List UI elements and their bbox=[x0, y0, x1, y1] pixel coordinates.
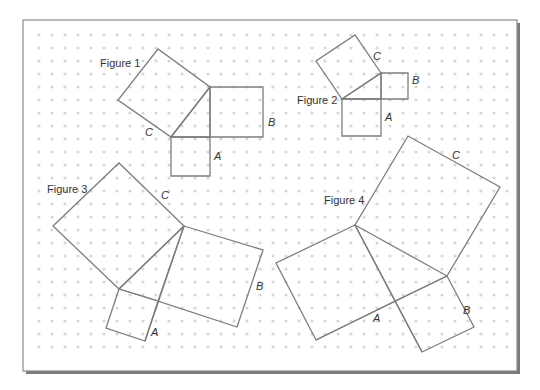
grid-dot bbox=[180, 280, 183, 283]
grid-dot bbox=[219, 46, 222, 49]
grid-dot bbox=[388, 46, 391, 49]
grid-dot bbox=[154, 33, 157, 36]
grid-dot bbox=[245, 345, 248, 348]
grid-dot bbox=[427, 124, 430, 127]
grid-dot bbox=[427, 59, 430, 62]
grid-dot bbox=[50, 215, 53, 218]
grid-dot bbox=[479, 72, 482, 75]
grid-dot bbox=[388, 319, 391, 322]
grid-dot bbox=[89, 59, 92, 62]
grid-dot bbox=[479, 319, 482, 322]
grid-dot bbox=[310, 345, 313, 348]
grid-dot bbox=[154, 72, 157, 75]
grid-dot bbox=[336, 332, 339, 335]
grid-dot bbox=[206, 280, 209, 283]
grid-dot bbox=[401, 111, 404, 114]
grid-dot bbox=[401, 189, 404, 192]
grid-dot bbox=[154, 241, 157, 244]
grid-dot bbox=[323, 111, 326, 114]
grid-dot bbox=[232, 33, 235, 36]
grid-dot bbox=[76, 215, 79, 218]
grid-dot bbox=[388, 306, 391, 309]
grid-dot bbox=[115, 150, 118, 153]
grid-dot bbox=[115, 228, 118, 231]
grid-dot bbox=[128, 33, 131, 36]
grid-dot bbox=[297, 124, 300, 127]
grid-dot bbox=[37, 293, 40, 296]
grid-dot bbox=[479, 46, 482, 49]
grid-dot bbox=[323, 306, 326, 309]
grid-dot bbox=[492, 345, 495, 348]
grid-dot bbox=[206, 111, 209, 114]
grid-dot bbox=[193, 241, 196, 244]
grid-dot bbox=[154, 137, 157, 140]
grid-dot bbox=[89, 124, 92, 127]
grid-dot bbox=[76, 319, 79, 322]
grid-dot bbox=[388, 267, 391, 270]
grid-dot bbox=[440, 46, 443, 49]
grid-dot bbox=[258, 111, 261, 114]
grid-dot bbox=[180, 293, 183, 296]
grid-dot bbox=[115, 254, 118, 257]
grid-dot bbox=[349, 46, 352, 49]
grid-dot bbox=[167, 124, 170, 127]
grid-dot bbox=[219, 59, 222, 62]
grid-dot bbox=[206, 241, 209, 244]
grid-dot bbox=[414, 306, 417, 309]
grid-dot bbox=[440, 124, 443, 127]
grid-dot bbox=[115, 72, 118, 75]
grid-dot bbox=[141, 306, 144, 309]
grid-dot bbox=[427, 306, 430, 309]
grid-dot bbox=[128, 176, 131, 179]
grid-dot bbox=[271, 85, 274, 88]
grid-dot bbox=[128, 189, 131, 192]
grid-dot bbox=[232, 137, 235, 140]
grid-dot bbox=[310, 124, 313, 127]
grid-dot bbox=[206, 150, 209, 153]
grid-dot bbox=[336, 176, 339, 179]
grid-dot bbox=[414, 98, 417, 101]
grid-dot bbox=[388, 332, 391, 335]
grid-dot bbox=[310, 189, 313, 192]
grid-dot bbox=[63, 163, 66, 166]
grid-dot bbox=[219, 202, 222, 205]
grid-dot bbox=[102, 150, 105, 153]
grid-dot bbox=[375, 254, 378, 257]
grid-dot bbox=[388, 59, 391, 62]
grid-dot bbox=[76, 176, 79, 179]
grid-dot bbox=[167, 215, 170, 218]
grid-dot bbox=[154, 189, 157, 192]
grid-dot bbox=[401, 124, 404, 127]
grid-dot bbox=[271, 59, 274, 62]
grid-dot bbox=[414, 319, 417, 322]
grid-dot bbox=[206, 72, 209, 75]
grid-dot bbox=[76, 33, 79, 36]
grid-dot bbox=[37, 215, 40, 218]
grid-dot bbox=[284, 59, 287, 62]
grid-dot bbox=[245, 189, 248, 192]
grid-dot bbox=[349, 150, 352, 153]
grid-dot bbox=[141, 176, 144, 179]
grid-dot bbox=[323, 124, 326, 127]
grid-dot bbox=[427, 267, 430, 270]
grid-dot bbox=[362, 124, 365, 127]
grid-dot bbox=[401, 59, 404, 62]
grid-dot bbox=[76, 137, 79, 140]
grid-dot bbox=[141, 228, 144, 231]
grid-dot bbox=[115, 332, 118, 335]
grid-dot bbox=[505, 332, 508, 335]
grid-dot bbox=[375, 124, 378, 127]
grid-dot bbox=[50, 163, 53, 166]
grid-dot bbox=[167, 111, 170, 114]
grid-dot bbox=[50, 85, 53, 88]
grid-dot bbox=[479, 59, 482, 62]
grid-dot bbox=[440, 280, 443, 283]
grid-dot bbox=[492, 98, 495, 101]
grid-dot bbox=[141, 46, 144, 49]
grid-dot bbox=[245, 254, 248, 257]
grid-dot bbox=[154, 202, 157, 205]
grid-dot bbox=[362, 254, 365, 257]
grid-dot bbox=[349, 59, 352, 62]
grid-dot bbox=[297, 111, 300, 114]
grid-dot bbox=[336, 267, 339, 270]
